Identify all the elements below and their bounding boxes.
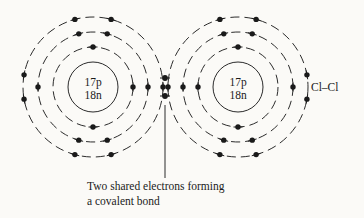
right-chlorine-electron-s3-7 <box>165 83 170 92</box>
molecule-formula-label: Cl–Cl <box>311 81 338 93</box>
right-chlorine-electron-s2-6 <box>180 83 185 92</box>
caption-line-2: a covalent bond <box>87 195 160 207</box>
left-chlorine-electron-s1-2 <box>89 124 98 129</box>
left-chlorine-neutron-count: 18n <box>84 89 102 101</box>
right-chlorine-electron-s3-2 <box>252 17 261 22</box>
left-chlorine-electron-s2-6 <box>145 83 150 92</box>
right-chlorine-electron-s2-5 <box>290 83 295 92</box>
left-chlorine-electron-s3-4 <box>71 152 80 157</box>
figure-canvas: 17p18n 17p18n Cl–Cl Two shared electrons… <box>0 0 364 218</box>
left-chlorine-electron-s2-3 <box>103 137 112 142</box>
right-chlorine-electron-s2-4 <box>219 137 228 142</box>
right-chlorine-proton-count: 17p <box>229 76 247 89</box>
left-chlorine-electron-s3-3 <box>107 152 116 157</box>
right-chlorine-electron-s3-3 <box>252 152 261 157</box>
left-chlorine-electron-s3-2 <box>107 17 116 22</box>
right-chlorine-electron-s3-5 <box>304 95 309 104</box>
right-chlorine-electron-s1-3 <box>195 83 200 92</box>
left-chlorine-electron-s2-5 <box>35 83 40 92</box>
atom-right-chlorine: 17p18n <box>165 17 309 158</box>
left-chlorine-electron-s3-7 <box>160 83 165 92</box>
right-chlorine-electron-s3-1 <box>216 17 225 22</box>
right-chlorine-electron-s2-1 <box>219 31 228 36</box>
right-chlorine-electron-s1-1 <box>234 44 243 49</box>
left-chlorine-electron-s2-2 <box>103 31 112 36</box>
left-chlorine-electron-s2-4 <box>74 137 83 142</box>
right-chlorine-electron-s1-2 <box>234 124 243 129</box>
left-chlorine-electron-s1-3 <box>130 83 135 92</box>
right-chlorine-electron-s3-4 <box>216 152 225 157</box>
right-chlorine-electron-s3-6 <box>304 70 309 79</box>
bohr-model-diagram: 17p18n 17p18n Cl–Cl Two shared electrons… <box>0 0 364 218</box>
left-chlorine-proton-count: 17p <box>84 76 102 89</box>
left-chlorine-electron-s1-1 <box>89 44 98 49</box>
caption-line-1: Two shared electrons forming <box>87 180 225 193</box>
left-chlorine-electron-s3-1 <box>71 17 80 22</box>
right-chlorine-electron-s2-2 <box>248 31 257 36</box>
atom-left-chlorine: 17p18n <box>21 17 165 158</box>
left-chlorine-electron-s2-1 <box>74 31 83 36</box>
right-chlorine-electron-s2-3 <box>248 137 257 142</box>
right-chlorine-neutron-count: 18n <box>229 89 247 101</box>
